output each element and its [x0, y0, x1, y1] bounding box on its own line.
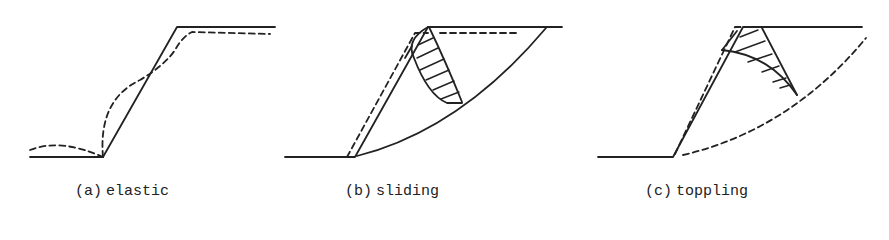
panel-b-sliding — [285, 27, 562, 157]
panel-c-failure-surface — [683, 38, 866, 155]
panel-c-hatch-arrows — [735, 30, 790, 88]
panel-a-deformed-slope — [102, 32, 270, 157]
panel-a-deformed-ground-bump — [30, 145, 103, 157]
panel-b-slip-surface — [357, 28, 546, 156]
panel-b-displacement-profile — [411, 27, 462, 103]
caption-c-label: toppling — [676, 183, 748, 200]
panel-c-original-slope — [598, 27, 862, 157]
caption-a-prefix: (a) — [75, 183, 102, 200]
caption-b: (b)sliding — [345, 183, 439, 200]
panel-a-elastic — [30, 27, 275, 157]
caption-b-label: sliding — [376, 183, 439, 200]
caption-c-prefix: (c) — [645, 183, 672, 200]
panel-b-original-slope — [285, 27, 562, 157]
caption-c: (c)toppling — [645, 183, 748, 200]
panel-c-toppling — [598, 27, 866, 157]
panel-c-toppling-wedge — [762, 28, 797, 95]
panel-a-original-slope — [30, 27, 275, 157]
caption-b-prefix: (b) — [345, 183, 372, 200]
caption-a: (a)elastic — [75, 183, 169, 200]
panel-b-displacement-profile-right — [429, 27, 462, 102]
caption-a-label: elastic — [106, 183, 169, 200]
panel-b-displaced-slope — [347, 33, 428, 157]
panel-c-displaced-slope — [675, 27, 748, 154]
